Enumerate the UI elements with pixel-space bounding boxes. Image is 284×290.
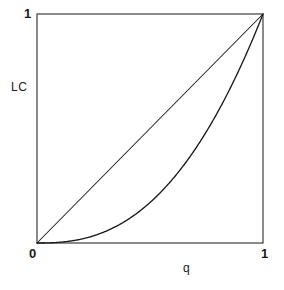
figure-background <box>0 0 284 290</box>
plot-canvas <box>0 0 284 290</box>
y-axis-max-tick-label: 1 <box>24 6 31 21</box>
x-axis-title: q <box>183 261 190 275</box>
x-axis-max-tick-label: 1 <box>261 246 268 261</box>
y-axis-title: LC <box>11 80 27 94</box>
x-axis-min-tick-label: 0 <box>29 246 36 261</box>
lorenz-curve-figure: 1 LC 0 1 q <box>0 0 284 290</box>
